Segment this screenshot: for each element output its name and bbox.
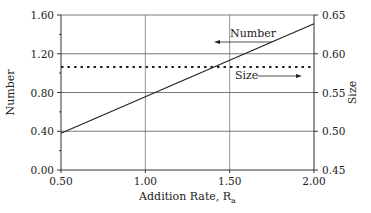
y-axis-label: Number xyxy=(4,69,17,116)
y2-tick-label: 0.55 xyxy=(322,87,345,99)
x-tick-label: 2.00 xyxy=(302,175,325,187)
y2-tick-label: 0.50 xyxy=(322,125,345,137)
y-tick-label: 0.40 xyxy=(31,125,54,137)
annotation-size: Size xyxy=(235,69,258,82)
annotation-number: Number xyxy=(230,27,277,40)
y-tick-label: 1.60 xyxy=(31,9,54,21)
y2-tick-label: 0.65 xyxy=(322,9,345,21)
y-tick-label: 0.80 xyxy=(31,87,54,99)
y2-axis-label: Size xyxy=(346,81,359,104)
arrow-right-icon xyxy=(296,74,302,78)
series-number xyxy=(61,24,314,133)
x-tick-label: 1.00 xyxy=(134,175,157,187)
y-tick-label: 1.20 xyxy=(31,48,54,60)
chart: 0.000.400.801.201.600.501.001.502.000.45… xyxy=(0,0,371,213)
x-axis-label: Addition Rate, Ra xyxy=(138,190,236,205)
arrow-left-icon xyxy=(214,40,220,44)
x-tick-label: 0.50 xyxy=(49,175,72,187)
x-tick-label: 1.50 xyxy=(218,175,241,187)
y2-tick-label: 0.45 xyxy=(322,164,345,176)
y2-tick-label: 0.60 xyxy=(322,48,345,60)
